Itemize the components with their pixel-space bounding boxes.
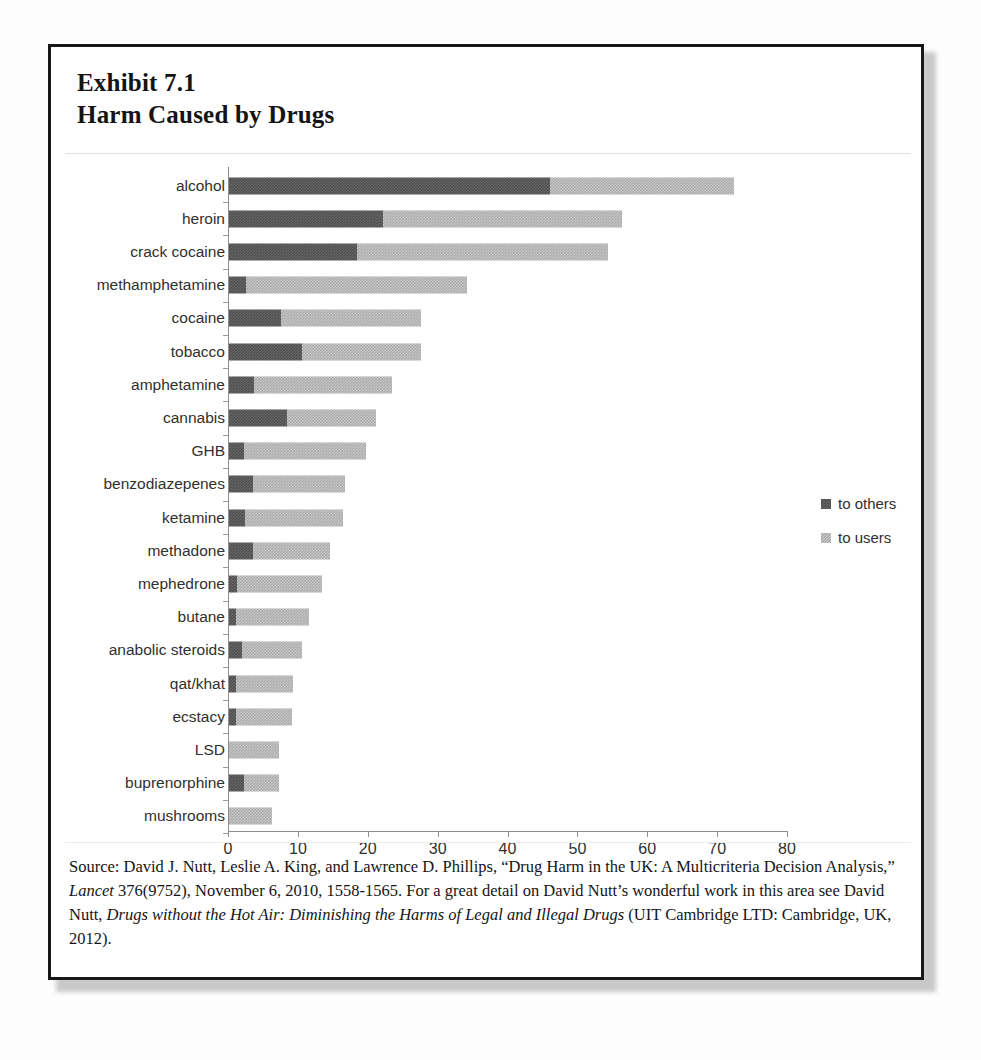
stacked-bar: [229, 509, 343, 526]
category-label-ecstacy: ecstacy: [172, 708, 225, 726]
legend-label: to others: [838, 495, 896, 512]
category-label-qat-khat: qat/khat: [170, 675, 225, 693]
bar-segment-to-others: [229, 443, 244, 460]
bar-row: tobacco: [51, 335, 921, 368]
bar-row: LSD: [51, 733, 921, 766]
stacked-bar: [229, 675, 293, 692]
x-axis-tick: [647, 831, 648, 837]
x-axis-tick: [228, 831, 229, 837]
bar-segment-to-users: [236, 675, 293, 692]
bar-segment-to-others: [229, 775, 244, 792]
scan-rule-top: [65, 153, 911, 154]
category-label-methadone: methadone: [147, 542, 225, 560]
x-axis-tick: [508, 831, 509, 837]
source-note-text: Source: David J. Nutt, Leslie A. King, a…: [69, 857, 895, 876]
bar-segment-to-others: [229, 642, 242, 659]
stacked-bar: [229, 210, 622, 227]
exhibit-title: Harm Caused by Drugs: [77, 99, 777, 131]
scanned-page: Exhibit 7.1 Harm Caused by Drugs alcohol…: [0, 0, 981, 1060]
stacked-bar: [229, 310, 421, 327]
category-label-amphetamine: amphetamine: [131, 376, 225, 394]
bar-segment-to-others: [229, 609, 236, 626]
x-axis-tick: [298, 831, 299, 837]
bar-row: mephedrone: [51, 567, 921, 600]
stacked-bar: [229, 476, 345, 493]
category-label-ketamine: ketamine: [162, 509, 225, 527]
stacked-bar: [229, 708, 292, 725]
bar-segment-to-users: [383, 210, 623, 227]
bar-segment-to-others: [229, 210, 383, 227]
bar-segment-to-others: [229, 708, 236, 725]
category-label-mephedrone: mephedrone: [138, 575, 225, 593]
bar-segment-to-users: [253, 476, 345, 493]
bar-row: qat/khat: [51, 667, 921, 700]
category-label-ghb: GHB: [191, 442, 225, 460]
legend-item-to-users[interactable]: to users: [821, 529, 896, 546]
exhibit-box: Exhibit 7.1 Harm Caused by Drugs alcohol…: [48, 44, 924, 980]
source-note: Source: David J. Nutt, Leslie A. King, a…: [69, 855, 905, 951]
category-label-cannabis: cannabis: [163, 409, 225, 427]
bar-segment-to-users: [287, 409, 376, 426]
exhibit-number: Exhibit 7.1: [77, 67, 777, 99]
bar-segment-to-users: [550, 177, 734, 194]
bar-segment-to-others: [229, 675, 236, 692]
bar-segment-to-users: [242, 642, 302, 659]
category-label-tobacco: tobacco: [171, 343, 225, 361]
bar-segment-to-users: [254, 376, 392, 393]
category-label-buprenorphine: buprenorphine: [125, 774, 225, 792]
category-label-methamphetamine: methamphetamine: [97, 276, 225, 294]
bar-segment-to-users: [302, 343, 421, 360]
category-label-butane: butane: [178, 608, 225, 626]
stacked-bar: [229, 277, 467, 294]
bar-segment-to-others: [229, 476, 253, 493]
bar-row: heroin: [51, 202, 921, 235]
bar-segment-to-users: [229, 741, 279, 758]
category-label-cocaine: cocaine: [172, 309, 225, 327]
stacked-bar: [229, 243, 608, 260]
bar-row: methamphetamine: [51, 269, 921, 302]
category-label-anabolic-steroids: anabolic steroids: [109, 641, 225, 659]
bar-segment-to-users: [244, 443, 366, 460]
bar-segment-to-others: [229, 542, 253, 559]
source-note-italic: Lancet: [69, 881, 114, 900]
bar-segment-to-others: [229, 310, 281, 327]
bar-segment-to-users: [253, 542, 331, 559]
bar-row: mushrooms: [51, 800, 921, 833]
bar-segment-to-others: [229, 177, 550, 194]
bar-segment-to-users: [229, 808, 272, 825]
bar-segment-to-others: [229, 343, 302, 360]
stacked-bar: [229, 741, 279, 758]
bar-row: cocaine: [51, 302, 921, 335]
bar-row: alcohol: [51, 169, 921, 202]
bar-row: ketamine: [51, 501, 921, 534]
bar-segment-to-users: [281, 310, 421, 327]
stacked-bar: [229, 642, 302, 659]
category-label-crack-cocaine: crack cocaine: [130, 243, 225, 261]
stacked-bar: [229, 808, 272, 825]
bar-row: amphetamine: [51, 368, 921, 401]
category-label-lsd: LSD: [195, 741, 225, 759]
legend-swatch-icon: [821, 499, 831, 509]
bar-segment-to-others: [229, 243, 357, 260]
stacked-bar: [229, 542, 330, 559]
x-axis-tick: [577, 831, 578, 837]
x-axis-tick: [438, 831, 439, 837]
bar-segment-to-users: [357, 243, 609, 260]
bar-segment-to-users: [237, 575, 322, 592]
stacked-bar: [229, 575, 322, 592]
scan-rule-bottom: [65, 842, 911, 843]
bar-segment-to-users: [244, 775, 279, 792]
bar-row: cannabis: [51, 401, 921, 434]
legend-swatch-icon: [821, 533, 831, 543]
category-label-mushrooms: mushrooms: [144, 807, 225, 825]
stacked-bar: [229, 775, 279, 792]
category-label-heroin: heroin: [182, 210, 225, 228]
bar-segment-to-others: [229, 509, 245, 526]
bar-row: crack cocaine: [51, 235, 921, 268]
legend-item-to-others[interactable]: to others: [821, 495, 896, 512]
x-axis-tick: [717, 831, 718, 837]
x-axis-tick: [787, 831, 788, 837]
category-label-benzodiazepenes: benzodiazepenes: [103, 475, 225, 493]
bar-row: anabolic steroids: [51, 634, 921, 667]
stacked-bar: [229, 177, 734, 194]
